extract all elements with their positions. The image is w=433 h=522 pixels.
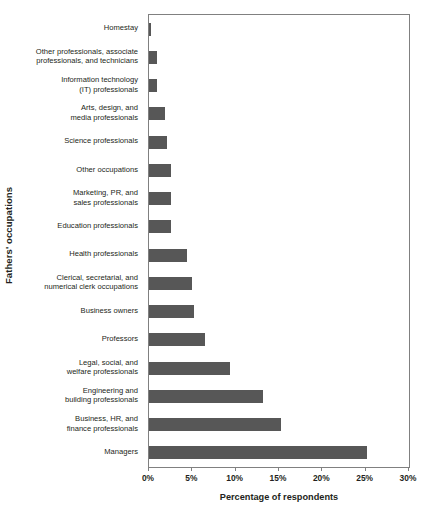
y-axis-category-label: Business, HR, andfinance professionals (18, 414, 138, 433)
bar (149, 192, 171, 205)
bar (149, 446, 367, 459)
bar-chart: Fathers' occupations HomestayOther profe… (0, 0, 433, 522)
x-axis-tick-mark (365, 467, 366, 471)
y-axis-title-text: Fathers' occupations (4, 186, 15, 283)
y-axis-category-label: Managers (18, 447, 138, 456)
y-axis-category-label: Health professionals (18, 249, 138, 258)
bar (149, 418, 281, 431)
bar (149, 362, 230, 375)
bar (149, 23, 151, 36)
bar (149, 79, 157, 92)
x-axis-tick-label: 20% (301, 473, 341, 483)
x-axis-title: Percentage of respondents (148, 492, 410, 502)
x-axis-tick-label: 5% (171, 473, 211, 483)
x-axis-tick-mark (321, 467, 322, 471)
x-axis-tick-mark (148, 467, 149, 471)
y-axis-category-label: Homestay (18, 23, 138, 32)
bar (149, 164, 171, 177)
plot-area (148, 14, 410, 468)
bar (149, 277, 192, 290)
y-axis-category-label: Legal, social, andwelfare professionals (18, 358, 138, 377)
y-axis-category-label: Information technology(IT) professionals (18, 75, 138, 94)
y-axis-category-label: Arts, design, andmedia professionals (18, 103, 138, 122)
bar (149, 107, 165, 120)
x-axis-tick-label: 25% (345, 473, 385, 483)
y-axis-category-label: Clerical, secretarial, andnumerical cler… (18, 273, 138, 292)
y-axis-category-label: Engineering andbuilding professionals (18, 386, 138, 405)
bars-layer (149, 15, 409, 467)
x-axis-tick-label: 10% (215, 473, 255, 483)
y-axis-category-label: Education professionals (18, 221, 138, 230)
x-axis-tick-mark (191, 467, 192, 471)
y-axis-category-label: Science professionals (18, 136, 138, 145)
y-axis-title: Fathers' occupations (0, 0, 18, 470)
y-axis-category-label: Other professionals, associateprofession… (18, 47, 138, 66)
bar (149, 136, 167, 149)
y-axis-category-labels: HomestayOther professionals, associatepr… (18, 14, 142, 466)
x-axis-tick-label: 0% (128, 473, 168, 483)
y-axis-category-label: Other occupations (18, 165, 138, 174)
bar (149, 390, 263, 403)
x-axis-tick-labels: 0%5%10%15%20%25%30% (118, 473, 433, 487)
y-axis-category-label: Marketing, PR, andsales professionals (18, 188, 138, 207)
bar (149, 305, 194, 318)
x-axis-tick-mark (235, 467, 236, 471)
y-axis-category-label: Professors (18, 334, 138, 343)
bar (149, 51, 157, 64)
x-axis-tick-label: 30% (388, 473, 428, 483)
bar (149, 220, 171, 233)
x-axis-tick-mark (408, 467, 409, 471)
y-axis-category-label: Business owners (18, 306, 138, 315)
bar (149, 249, 187, 262)
bar (149, 333, 205, 346)
x-axis-tick-mark (278, 467, 279, 471)
x-axis-tick-label: 15% (258, 473, 298, 483)
